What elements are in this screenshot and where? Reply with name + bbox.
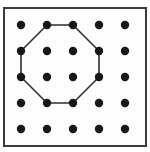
grid-dot bbox=[17, 21, 25, 29]
grid-dot bbox=[17, 99, 25, 107]
grid-dot bbox=[17, 47, 25, 55]
grid-dot bbox=[43, 99, 51, 107]
grid-dot bbox=[121, 125, 129, 133]
grid-dot bbox=[95, 125, 103, 133]
grid-dot bbox=[17, 125, 25, 133]
grid-dot bbox=[121, 73, 129, 81]
grid-dot bbox=[43, 47, 51, 55]
grid-dot bbox=[69, 47, 77, 55]
grid-dot bbox=[43, 73, 51, 81]
grid-dot bbox=[43, 21, 51, 29]
figure-canvas bbox=[0, 0, 150, 152]
grid-dot bbox=[69, 73, 77, 81]
grid-dot bbox=[95, 21, 103, 29]
grid-dot bbox=[121, 47, 129, 55]
grid-dot bbox=[95, 47, 103, 55]
grid-dot bbox=[121, 99, 129, 107]
grid-dot bbox=[69, 125, 77, 133]
grid-dot bbox=[95, 99, 103, 107]
grid-dot bbox=[43, 125, 51, 133]
grid-dot bbox=[17, 73, 25, 81]
grid-dot bbox=[95, 73, 103, 81]
grid-dot bbox=[121, 21, 129, 29]
grid-dot bbox=[69, 21, 77, 29]
octagon-dot-grid-figure bbox=[0, 0, 150, 152]
grid-dot bbox=[69, 99, 77, 107]
